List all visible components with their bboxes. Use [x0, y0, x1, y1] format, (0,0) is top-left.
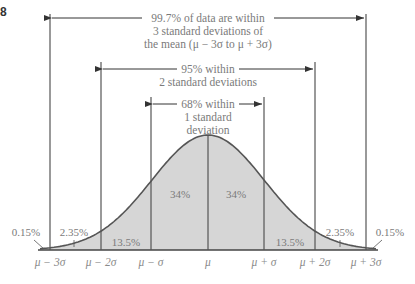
axis-label-mu-minus-2sigma: μ − 2σ [85, 256, 118, 269]
region-right-2-3: 2.35% [326, 226, 354, 238]
annotation-3sigma-line2: 3 standard deviations of [153, 25, 263, 37]
region-right-tail: 0.15% [376, 226, 404, 238]
annotation-1sigma-line2: 1 standard [184, 111, 232, 123]
annotation-3sigma-line1: 99.7% of data are within [151, 12, 265, 24]
annotation-1sigma-line1: 68% within [181, 98, 235, 110]
region-right-0-1: 34% [226, 188, 246, 200]
leader-right-tail [372, 240, 382, 249]
region-left-1-2: 13.5% [112, 236, 140, 248]
annotation-1sigma-line3: deviation [187, 124, 230, 136]
axis-label-mu-minus-3sigma: μ − 3σ [34, 256, 67, 269]
axis-label-mu-minus-sigma: μ − σ [138, 256, 165, 269]
region-left-tail: 0.15% [12, 226, 40, 238]
leader-left-tail [34, 240, 44, 249]
axis-label-mu: μ [204, 256, 211, 269]
annotation-3sigma-line3: the mean (μ − 3σ to μ + 3σ) [144, 38, 272, 51]
axis-label-mu-plus-sigma: μ + σ [251, 256, 278, 269]
annotation-2sigma-line2: 2 standard deviations [159, 76, 257, 88]
axis-label-mu-plus-2sigma: μ + 2σ [299, 256, 332, 269]
normal-distribution-diagram: 99.7% of data are within 3 standard devi… [0, 0, 415, 284]
axis-label-mu-plus-3sigma: μ + 3σ [350, 256, 383, 269]
region-right-1-2: 13.5% [276, 236, 304, 248]
region-left-0-1: 34% [170, 188, 190, 200]
region-left-2-3: 2.35% [60, 226, 88, 238]
annotation-2sigma-line1: 95% within [181, 63, 235, 75]
